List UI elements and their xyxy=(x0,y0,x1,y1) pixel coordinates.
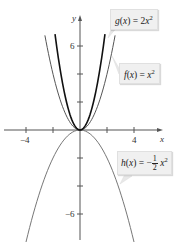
x-tick-label-neg4: −4 xyxy=(20,135,30,145)
x-axis-arrow-icon xyxy=(157,128,163,132)
y-axis-label: y xyxy=(71,13,76,23)
g-callout: g(x) = 2x2 xyxy=(110,9,158,30)
y-axis-arrow-icon xyxy=(78,15,82,21)
chart-plot: −4 4 6 −6 x y xyxy=(0,0,174,243)
x-axis-label: x xyxy=(159,134,164,144)
fraction: 12 xyxy=(152,155,158,172)
h-callout: h(x) = −12 x2 xyxy=(117,151,172,175)
x-tick-label-4: 4 xyxy=(132,135,137,145)
y-tick-label-6: 6 xyxy=(70,41,75,51)
f-callout: f(x) = x2 xyxy=(119,63,160,84)
y-tick-label-neg6: −6 xyxy=(65,209,75,219)
h-callout-pointer xyxy=(120,176,132,184)
f-callout-pointer xyxy=(112,56,119,74)
